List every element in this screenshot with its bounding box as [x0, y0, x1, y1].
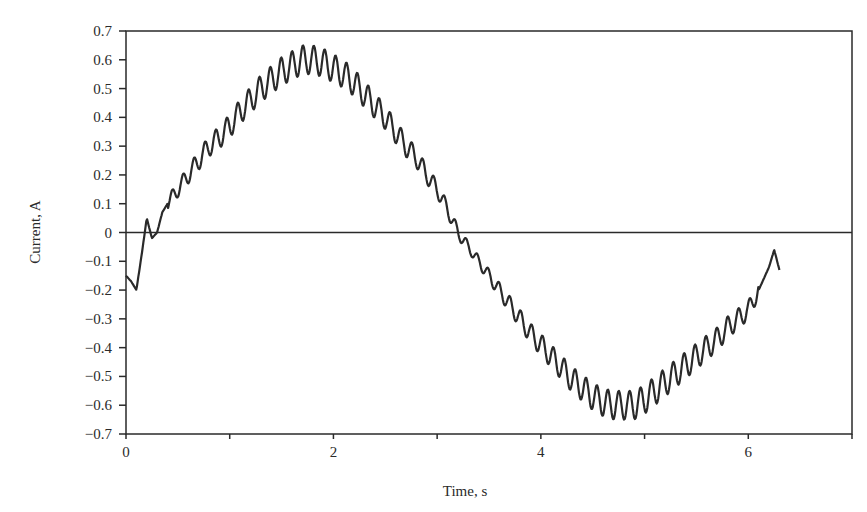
y-tick-label: −0.2	[85, 282, 112, 298]
y-tick-label: 0.7	[93, 23, 112, 39]
y-tick-label: −0.6	[85, 397, 113, 413]
x-tick-label: 4	[537, 444, 545, 460]
y-tick-label: 0.4	[93, 109, 112, 125]
x-tick-label: 2	[330, 444, 338, 460]
y-tick-label: 0.1	[93, 196, 112, 212]
x-tick-label: 6	[745, 444, 753, 460]
y-tick-label: 0.2	[93, 167, 112, 183]
y-tick-label: 0.5	[93, 81, 112, 97]
y-axis-title: Current, A	[27, 200, 43, 263]
current-vs-time-chart: 0.70.60.50.40.30.20.10−0.1−0.2−0.3−0.4−0…	[0, 0, 867, 512]
y-tick-label: −0.4	[85, 340, 113, 356]
x-axis-title: Time, s	[443, 483, 488, 499]
y-tick-label: 0.6	[93, 52, 112, 68]
y-tick-label: 0.3	[93, 138, 112, 154]
x-tick-label: 0	[122, 444, 130, 460]
y-tick-label: −0.3	[85, 311, 112, 327]
y-tick-label: −0.7	[85, 426, 113, 442]
y-tick-label: −0.1	[85, 253, 112, 269]
x-axis-ticks: 0246	[122, 434, 852, 460]
y-tick-label: −0.5	[85, 368, 112, 384]
y-axis-ticks: 0.70.60.50.40.30.20.10−0.1−0.2−0.3−0.4−0…	[85, 23, 126, 442]
y-tick-label: 0	[105, 225, 113, 241]
